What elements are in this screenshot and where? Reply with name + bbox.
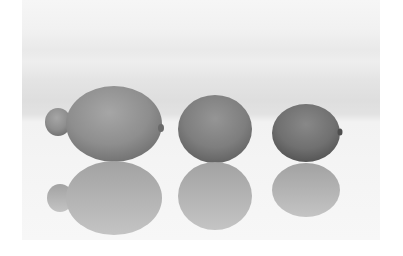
orange (178, 95, 252, 163)
orange-reflection (178, 162, 252, 230)
lemon (45, 86, 164, 162)
lime (272, 104, 343, 162)
lemon-reflection (47, 161, 162, 235)
lime-reflection (272, 163, 340, 217)
fruit-illustration (0, 0, 403, 256)
